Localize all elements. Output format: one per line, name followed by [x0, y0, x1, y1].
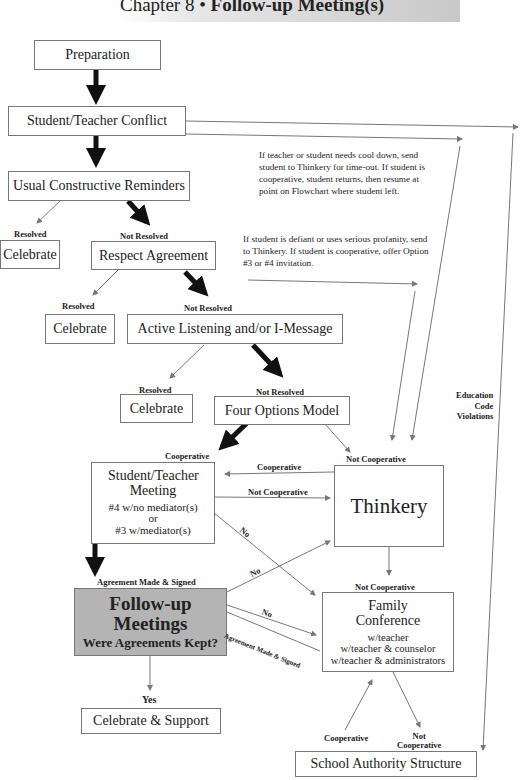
label-cooperative-bottom: Cooperative: [324, 733, 368, 743]
label-not-cooperative-top: Not Cooperative: [346, 454, 406, 464]
node-student-teacher-meeting: Student/Teacher Meeting #4 w/no mediator…: [91, 462, 215, 544]
node-reminders: Usual Constructive Reminders: [8, 171, 190, 201]
node-preparation: Preparation: [34, 40, 161, 70]
label-resolved-2: Resolved: [62, 301, 95, 311]
label-cooperative-arrow: Cooperative: [257, 462, 301, 472]
node-thinkery: Thinkery: [334, 465, 444, 547]
node-celebrate-support: Celebrate & Support: [81, 708, 221, 734]
node-active-listening: Active Listening and/or I-Message: [127, 314, 343, 344]
node-family-conference: Family Conference w/teacher w/teacher & …: [322, 592, 454, 672]
label-resolved-1: Resolved: [14, 229, 47, 239]
label-agreement-1: Agreement Made & Signed: [97, 577, 196, 587]
node-followup-meetings: Follow-up Meetings Were Agreements Kept?: [74, 588, 227, 656]
note-defiant: If student is defiant or uses serious pr…: [243, 234, 433, 270]
label-not-cooperative-arrow: Not Cooperative: [248, 487, 308, 497]
label-yes: Yes: [142, 694, 156, 705]
node-respect: Respect Agreement: [91, 241, 216, 270]
label-not-resolved-2: Not Resolved: [184, 303, 232, 313]
label-not-resolved-1: Not Resolved: [120, 231, 168, 241]
label-education-code-violations: EducationCodeViolations: [456, 390, 493, 422]
node-celebrate-3: Celebrate: [120, 394, 193, 423]
node-conflict: Student/Teacher Conflict: [8, 106, 186, 136]
node-celebrate-1: Celebrate: [0, 240, 60, 269]
label-cooperative-top: Cooperative: [165, 451, 209, 461]
node-school-authority: School Authority Structure: [295, 751, 477, 777]
label-not-cooperative-bottom: NotCooperative: [397, 732, 441, 749]
label-not-cooperative-family: Not Cooperative: [355, 582, 415, 592]
node-celebrate-2: Celebrate: [45, 314, 115, 344]
note-cooldown: If teacher or student needs cool down, s…: [259, 150, 439, 198]
node-four-options: Four Options Model: [214, 396, 350, 425]
